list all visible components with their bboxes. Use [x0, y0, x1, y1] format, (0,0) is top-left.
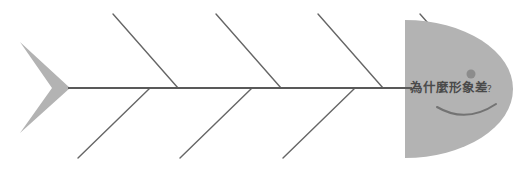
fishbone-diagram: 為什麼形象差 ？ [0, 0, 527, 174]
problem-statement-question-mark: ？ [487, 84, 496, 94]
fishbone-diagram-canvas: 為什麼形象差 ？ [0, 0, 527, 174]
fish-eye-icon [467, 70, 476, 79]
problem-statement-label: 為什麼形象差 [409, 80, 488, 95]
